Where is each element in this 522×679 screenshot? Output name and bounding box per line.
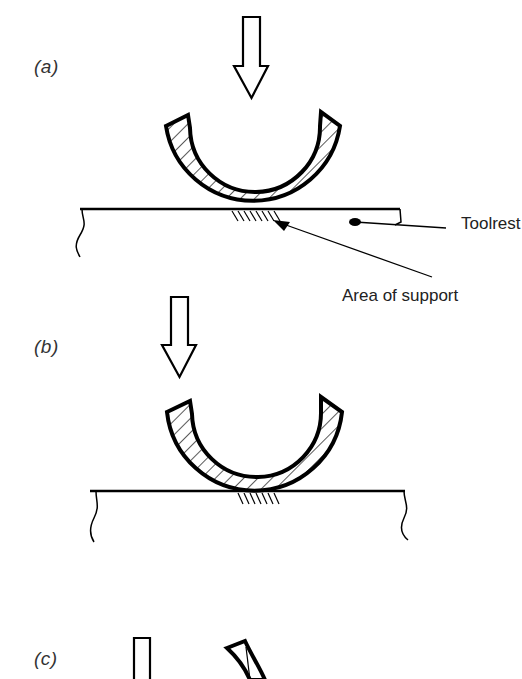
panel-label-c: (c) xyxy=(34,648,58,670)
support-area-hatch xyxy=(238,493,279,504)
support-area-hatch xyxy=(232,211,280,221)
panel-a xyxy=(76,17,446,277)
toolrest-left-break xyxy=(76,209,84,257)
panel-c xyxy=(134,638,265,679)
panel-label-a: (a) xyxy=(34,56,59,78)
toolrest-right-break xyxy=(401,491,408,540)
panel-b xyxy=(90,297,408,542)
gouge-cross-section xyxy=(166,112,340,201)
gouge-cross-section xyxy=(227,641,265,679)
diagram-canvas xyxy=(0,0,522,679)
toolrest-label: Toolrest xyxy=(461,214,521,234)
area-of-support-label: Area of support xyxy=(342,286,458,306)
toolrest-left-break xyxy=(91,491,98,542)
force-arrow-icon xyxy=(234,17,268,98)
force-arrow-icon xyxy=(162,297,196,377)
gouge-cross-section xyxy=(167,397,342,491)
panel-label-b: (b) xyxy=(34,336,59,358)
toolrest-right-end xyxy=(395,209,401,225)
force-arrow-icon xyxy=(134,638,150,679)
